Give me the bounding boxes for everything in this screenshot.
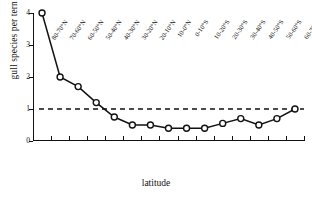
data-point-marker (166, 125, 172, 131)
data-point-marker (184, 125, 190, 131)
y-tick-label: 0 (26, 137, 30, 145)
data-point-marker (274, 116, 280, 122)
data-point-marker (57, 74, 63, 80)
data-line (42, 13, 295, 128)
data-point-marker (238, 116, 244, 122)
data-point-marker (147, 122, 153, 128)
data-point-marker (39, 10, 45, 16)
series-svg (33, 13, 304, 141)
x-tick-label: 60-70°S (303, 19, 312, 41)
data-point-marker (75, 84, 81, 90)
plot-area: 01234 80-70°N70-60°N60-50°N50-40°N40-30°… (33, 13, 304, 141)
y-tick-label: 3 (26, 41, 30, 49)
data-point-marker (220, 120, 226, 126)
y-tick-label: 2 (26, 73, 30, 81)
y-tick-label: 4 (26, 9, 30, 17)
y-axis-title: gull species per tern species (9, 0, 19, 95)
data-point-marker (292, 106, 298, 112)
y-tick-label: 1 (26, 105, 30, 113)
data-point-marker (202, 125, 208, 131)
data-point-marker (256, 122, 262, 128)
x-axis-title: latitude (0, 178, 312, 188)
data-point-marker (93, 100, 99, 106)
data-point-marker (111, 114, 117, 120)
data-point-marker (129, 122, 135, 128)
chart-figure: gull species per tern species 01234 80-7… (0, 0, 312, 200)
x-tick (304, 136, 305, 141)
